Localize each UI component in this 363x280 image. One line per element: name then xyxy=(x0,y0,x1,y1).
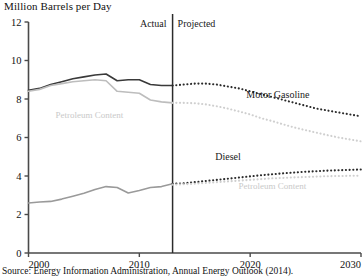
x-tick-2030: 2030 xyxy=(340,259,361,270)
annotation-petroleum-content-1: Petroleum Content xyxy=(56,110,124,120)
source-note: Source: Energy Information Administratio… xyxy=(2,266,293,277)
y-tick-2: 2 xyxy=(16,209,21,220)
series-motor-gasoline-petroleum-content-projected xyxy=(173,103,361,142)
series-diesel-actual xyxy=(29,184,173,203)
figure-container: Million Barrels per Day 024681012 200020… xyxy=(0,0,363,280)
series-motor-gasoline-petroleum-content-actual xyxy=(29,80,173,103)
annotation-diesel-2: Diesel xyxy=(215,151,241,162)
annotation-petroleum-content-3: Petroleum Content xyxy=(238,181,306,191)
y-tick-10: 10 xyxy=(11,55,22,66)
label-projected: Projected xyxy=(178,18,216,29)
y-tick-12: 12 xyxy=(11,17,22,28)
y-tick-8: 8 xyxy=(16,94,21,105)
y-tick-6: 6 xyxy=(16,132,21,143)
series-motor-gasoline-actual xyxy=(29,74,173,90)
y-tick-0: 0 xyxy=(16,248,21,259)
chart-plot-area: 024681012 2000201020202030 ActualProject… xyxy=(0,0,363,280)
y-tick-labels: 024681012 xyxy=(11,17,29,259)
annotation-motor-gasoline-0: Motor Gasoline xyxy=(246,89,310,100)
chart-series-layer xyxy=(29,74,362,203)
label-actual: Actual xyxy=(140,18,167,29)
period-labels: ActualProjected xyxy=(140,18,215,29)
chart-axes xyxy=(29,22,362,253)
y-tick-4: 4 xyxy=(16,171,22,182)
